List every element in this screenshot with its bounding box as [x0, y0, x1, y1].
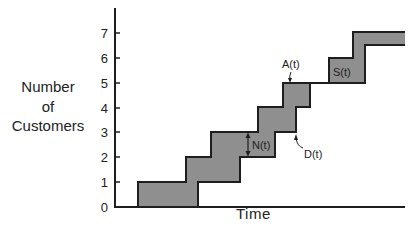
y-tick-5: 5: [101, 76, 108, 91]
d-of-t-pointer-arrow: [294, 134, 303, 148]
departure-curve: [198, 45, 405, 207]
y-tick-0: 0: [101, 200, 108, 215]
d-of-t-label: D(t): [304, 148, 322, 160]
y-tick-7: 7: [101, 26, 108, 41]
area-between-curves: [138, 83, 310, 207]
y-tick-2: 2: [101, 150, 108, 165]
y-tick-labels: 0 1 2 3 4 5 6 7: [101, 26, 108, 215]
n-of-t-label: N(t): [252, 139, 270, 151]
queue-diagram: 0 1 2 3 4 5 6 7 N(t) S(t) A(t) D(t): [0, 0, 410, 227]
x-axis-label: Time: [236, 205, 271, 222]
y-tick-4: 4: [101, 101, 108, 116]
y-tick-6: 6: [101, 51, 108, 66]
y-tick-3: 3: [101, 125, 108, 140]
s-of-t-label: S(t): [333, 66, 351, 78]
y-tick-1: 1: [101, 175, 108, 190]
a-of-t-label: A(t): [282, 58, 300, 70]
a-of-t-pointer-arrow: [288, 72, 292, 83]
